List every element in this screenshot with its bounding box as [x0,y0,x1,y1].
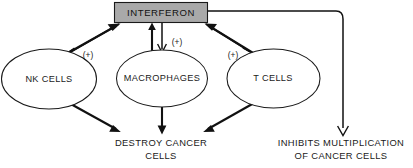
interferon-immune-response-diagram: INTERFERON NK CELLS MACROPHAGES T CELLS … [0,0,413,168]
destroy-cancer-cells-line2: CELLS [145,150,176,161]
tcell-plus-label: (+) [228,50,239,60]
macrophage-plus-label: (+) [172,37,183,47]
nk-plus-label: (+) [83,50,94,60]
diagram-canvas: INTERFERON NK CELLS MACROPHAGES T CELLS … [0,0,413,168]
destroy-cancer-cells-line1: DESTROY CANCER [115,137,207,148]
edge-macrophages-to-destroy [158,106,167,135]
nk-cells-label: NK CELLS [25,74,72,84]
macrophages-label: MACROPHAGES [124,73,200,83]
edge-tcells-to-destroy [203,103,254,132]
inhibits-multiplication-line1: INHIBITS MULTIPLICATION [278,137,404,148]
t-cells-label: T CELLS [253,73,293,83]
edge-nk-to-destroy [69,103,121,132]
inhibits-multiplication-line2: OF CANCER CELLS [295,150,388,161]
interferon-label: INTERFERON [127,7,195,18]
edge-interferon-to-macrophages [158,23,167,53]
